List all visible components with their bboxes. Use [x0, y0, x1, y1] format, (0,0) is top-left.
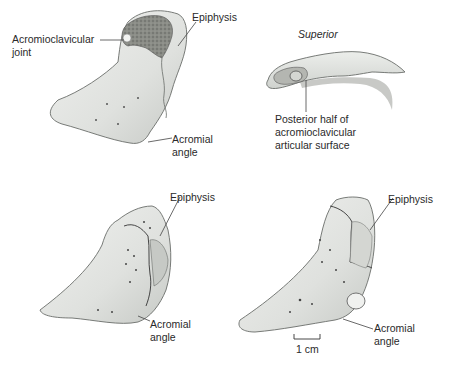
label-superior-view: Superior [298, 28, 338, 41]
label-acromial-angle-bottom-left: Acromial angle [150, 318, 191, 344]
label-line: angle [172, 146, 213, 159]
label-line: joint [12, 46, 94, 59]
label-posterior-half-articular-surface: Posterior half of acromioclavicular arti… [275, 113, 356, 152]
top-right-acromion-superior [267, 52, 405, 110]
top-left-acromion [50, 11, 186, 144]
acromion-figure: Acromioclavicular joint Epiphysis Acromi… [0, 0, 457, 370]
bottom-left-acromion [40, 206, 171, 323]
label-line: Acromial [172, 133, 213, 146]
label-line: articular surface [275, 139, 356, 152]
label-line: Acromioclavicular [12, 33, 94, 46]
label-line: angle [374, 335, 415, 348]
scale-bar [294, 334, 320, 339]
label-acromial-angle-bottom-right: Acromial angle [374, 322, 415, 348]
label-acromioclavicular-joint: Acromioclavicular joint [12, 33, 94, 59]
label-line: Acromial [374, 322, 415, 335]
label-line: angle [150, 331, 191, 344]
label-acromial-angle-top-left: Acromial angle [172, 133, 213, 159]
label-epiphysis-top-left: Epiphysis [192, 11, 237, 24]
scale-bar-label: 1 cm [296, 343, 319, 356]
label-line: Posterior half of [275, 113, 356, 126]
label-epiphysis-bottom-right: Epiphysis [388, 193, 433, 206]
label-line: Acromial [150, 318, 191, 331]
label-epiphysis-bottom-left: Epiphysis [170, 191, 215, 204]
label-line: acromioclavicular [275, 126, 356, 139]
bottom-right-acromion [239, 197, 375, 332]
